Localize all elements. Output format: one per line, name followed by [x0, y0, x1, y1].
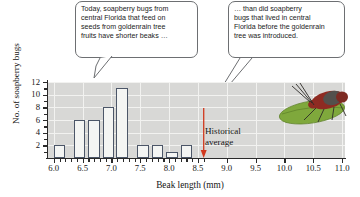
x-tick-mark-minor: [175, 159, 176, 162]
x-tick-label: 10.0: [269, 163, 299, 173]
x-tick-label: 11.0: [327, 163, 357, 173]
x-tick-mark-minor: [152, 159, 153, 162]
x-tick-mark: [227, 159, 228, 163]
x-tick-mark-minor: [94, 159, 95, 162]
y-tick-mark-minor: [44, 152, 47, 153]
x-tick-label: 8.0: [154, 163, 184, 173]
x-tick-mark-minor: [204, 159, 205, 162]
histogram-bar: [181, 145, 193, 158]
x-tick-label: 8.5: [183, 163, 213, 173]
x-tick-mark: [284, 159, 285, 163]
histogram-bar: [74, 120, 86, 158]
y-tick-mark: [43, 107, 47, 108]
x-tick-mark-minor: [163, 159, 164, 162]
soapberry-bug-on-leaf: [276, 78, 356, 130]
x-tick-mark-minor: [146, 159, 147, 162]
historical-average-line-2: average: [205, 137, 265, 148]
figure-soapberry-beak-length: Today, soapberry bugs from central Flori…: [0, 0, 360, 197]
y-tick-mark-minor: [44, 139, 47, 140]
x-tick-mark-minor: [158, 159, 159, 162]
x-tick-mark-minor: [129, 159, 130, 162]
x-tick-mark-minor: [123, 159, 124, 162]
x-tick-mark-minor: [60, 159, 61, 162]
y-tick-mark: [43, 145, 47, 146]
x-tick-label: 6.5: [68, 163, 98, 173]
x-tick-mark: [169, 159, 170, 163]
x-tick-label: 6.0: [39, 163, 69, 173]
historical-average-line-1: Historical: [205, 126, 265, 137]
x-tick-mark-minor: [106, 159, 107, 162]
histogram-bar: [54, 145, 66, 158]
x-tick-mark-minor: [186, 159, 187, 162]
y-tick-mark: [43, 120, 47, 121]
callout-right-line-3: Florida before the goldenrain: [234, 23, 339, 32]
x-tick-mark: [313, 159, 314, 163]
x-axis-line: [46, 158, 346, 159]
y-tick-mark: [43, 95, 47, 96]
y-axis-line: [47, 80, 48, 159]
x-tick-mark-minor: [192, 159, 193, 162]
x-tick-mark: [342, 159, 343, 163]
callout-left-line-2: central Florida that feed on: [81, 14, 192, 23]
y-tick-mark-minor: [44, 126, 47, 127]
y-tick-mark-minor: [44, 114, 47, 115]
histogram-bar: [152, 145, 164, 158]
callout-right-line-1: … than did soapberry: [234, 5, 339, 14]
y-tick-label: 4: [16, 127, 40, 137]
y-axis-title: No. of soapberry bugs: [11, 42, 22, 126]
callout-left-line-1: Today, soapberry bugs from: [81, 5, 192, 14]
callout-left-line-3: seeds from goldenrain tree: [81, 23, 192, 32]
histogram-bar: [137, 145, 149, 158]
x-tick-mark: [198, 159, 199, 163]
callout-right-line-2: bugs that lived in central: [234, 14, 339, 23]
x-tick-label: 7.0: [96, 163, 126, 173]
histogram-bar: [116, 88, 128, 158]
x-tick-label: 10.5: [298, 163, 328, 173]
x-tick-mark-minor: [100, 159, 101, 162]
x-axis-title: Beak length (mm): [120, 180, 260, 190]
x-tick-mark-minor: [117, 159, 118, 162]
x-tick-label: 9.0: [212, 163, 242, 173]
callout-left-line-4: fruits have shorter beaks …: [81, 32, 192, 41]
x-tick-mark-minor: [65, 159, 66, 162]
histogram-bar: [103, 107, 115, 158]
x-tick-mark: [54, 159, 55, 163]
y-tick-label: 2: [16, 140, 40, 150]
historical-average-label: Historical average: [205, 126, 265, 147]
x-tick-label: 9.5: [241, 163, 271, 173]
x-tick-mark-minor: [181, 159, 182, 162]
x-tick-label: 7.5: [125, 163, 155, 173]
y-tick-mark: [43, 82, 47, 83]
histogram-bar: [88, 120, 100, 158]
callout-right: … than did soapberry bugs that lived in …: [228, 1, 345, 58]
callout-left: Today, soapberry bugs from central Flori…: [75, 1, 198, 58]
x-tick-mark-minor: [88, 159, 89, 162]
x-tick-mark: [111, 159, 112, 163]
y-tick-mark-minor: [44, 101, 47, 102]
x-tick-mark: [140, 159, 141, 163]
x-tick-mark: [256, 159, 257, 163]
y-tick-mark: [43, 133, 47, 134]
x-tick-mark: [83, 159, 84, 163]
callout-right-line-4: tree was introduced.: [234, 32, 339, 41]
x-tick-mark-minor: [77, 159, 78, 162]
x-tick-mark-minor: [71, 159, 72, 162]
y-tick-mark-minor: [44, 88, 47, 89]
x-tick-mark-minor: [135, 159, 136, 162]
